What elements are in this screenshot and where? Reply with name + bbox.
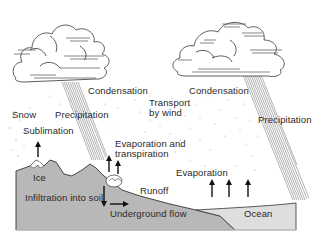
label-runoff: Runoff bbox=[140, 186, 168, 196]
label-transport-2: by wind bbox=[149, 108, 182, 118]
label-infiltration: Infiltration into soil bbox=[25, 193, 103, 203]
label-evaporation: Evaporation bbox=[176, 168, 228, 178]
label-snow: Snow bbox=[12, 110, 36, 120]
cloud-right bbox=[173, 22, 284, 76]
label-precipitation-right: Precipitation bbox=[258, 115, 312, 125]
label-condensation-left: Condensation bbox=[88, 86, 148, 96]
label-ocean: Ocean bbox=[244, 209, 273, 219]
label-ice: Ice bbox=[33, 173, 46, 183]
vegetation-icon bbox=[106, 175, 122, 187]
label-precipitation-left: Precipitation bbox=[55, 110, 109, 120]
cloud-left bbox=[13, 25, 109, 82]
label-condensation-right: Condensation bbox=[189, 86, 249, 96]
label-evaporation-transpiration-2: transpiration bbox=[115, 149, 169, 159]
label-sublimation: Sublimation bbox=[23, 126, 74, 136]
label-underground-flow: Underground flow bbox=[110, 209, 187, 219]
precipitation-right-rain bbox=[243, 75, 309, 200]
